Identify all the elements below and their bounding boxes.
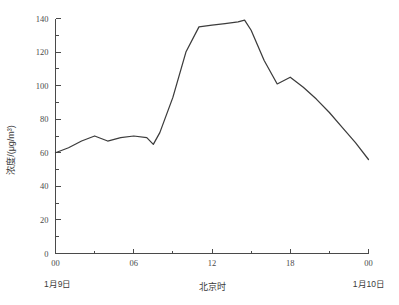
line-chart: 020406080100120140 0006121800 浓度/(μg/m³)… (0, 0, 399, 305)
x-tick-label: 00 (364, 258, 373, 268)
y-axis-title: 浓度/(μg/m³) (5, 125, 16, 175)
y-tick-label: 140 (36, 14, 49, 24)
y-tick-label: 60 (40, 148, 49, 158)
y-tick-label: 0 (44, 249, 48, 259)
y-tick-label: 80 (40, 114, 49, 124)
x-tick-label: 12 (208, 258, 217, 268)
y-axis-ticks: 020406080100120140 (36, 14, 61, 259)
axis-frame (56, 19, 369, 254)
x-axis-title: 北京时 (199, 281, 226, 292)
x-tick-label: 06 (130, 258, 139, 268)
x-tick-label: 00 (51, 258, 60, 268)
end-date-label: 1月10日 (353, 279, 385, 289)
y-tick-label: 20 (40, 215, 49, 225)
start-date-label: 1月9日 (44, 279, 71, 289)
y-tick-label: 100 (36, 81, 49, 91)
y-tick-label: 120 (36, 47, 49, 57)
y-tick-label: 40 (40, 181, 49, 191)
chart-container: 020406080100120140 0006121800 浓度/(μg/m³)… (0, 0, 399, 305)
concentration-series-line (56, 20, 369, 159)
x-axis-ticks: 0006121800 (51, 249, 373, 268)
x-tick-label: 18 (286, 258, 295, 268)
